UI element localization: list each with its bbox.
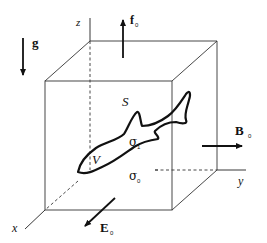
magnetic-field-subscript: 0 (248, 133, 252, 139)
surface-label: S (122, 94, 129, 109)
outer-conductivity-subscript: 0 (137, 178, 141, 184)
cube-top-right-edge (172, 41, 217, 81)
cube-bottom-right-edge (172, 170, 217, 210)
force-subscript: 0 (135, 22, 139, 28)
magnetic-field-label: B (235, 123, 244, 138)
z-axis-label: z (75, 16, 81, 28)
cube-top-left-edge (45, 41, 90, 81)
x-axis (25, 210, 45, 229)
x-axis-label: x (11, 221, 18, 235)
electric-field-label: E (100, 220, 109, 235)
inner-conductivity-subscript: 1 (137, 144, 141, 150)
outer-conductivity-label: σ (129, 169, 137, 183)
y-axis-label: y (237, 174, 244, 188)
inner-conductivity-label: σ (129, 135, 137, 149)
electric-field-subscript: 0 (110, 230, 114, 236)
x-axis-hidden (45, 181, 78, 210)
gravity-label: g (32, 35, 39, 50)
fish-field-diagram: z y x g f 0 B 0 E 0 S V σ 1 σ 0 (0, 0, 267, 243)
volume-label: V (92, 152, 102, 167)
cube-front-face (45, 81, 172, 210)
